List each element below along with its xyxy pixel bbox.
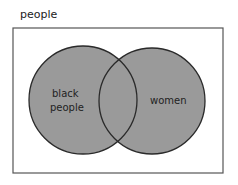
set-women-label: women: [150, 95, 187, 106]
set-black-people-label-2: people: [50, 102, 84, 113]
venn-diagram: black people women: [0, 0, 238, 185]
set-black-people-label-1: black: [52, 88, 79, 99]
